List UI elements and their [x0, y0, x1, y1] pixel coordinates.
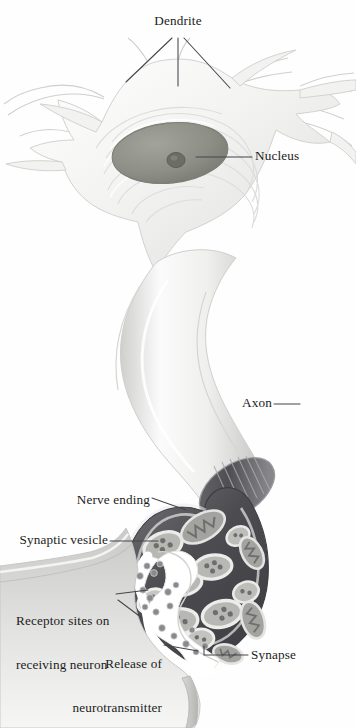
label-release-line1: Release of — [44, 657, 162, 672]
label-release-neurotransmitter: Release of neurotransmitter — [44, 628, 162, 728]
label-nucleus: Nucleus — [255, 149, 299, 164]
nucleolus-highlight — [171, 155, 178, 160]
label-nerve-ending: Nerve ending — [42, 493, 150, 508]
label-synaptic-vesicle: Synaptic vesicle — [16, 533, 108, 548]
label-axon: Axon — [232, 396, 272, 411]
label-release-line2: neurotransmitter — [44, 701, 162, 716]
label-synapse: Synapse — [251, 648, 296, 663]
soma-and-dendrites — [4, 38, 356, 272]
neuron-diagram: Dendrite Nucleus Axon Nerve ending Synap… — [0, 0, 356, 728]
label-receptor-sites-line1: Receptor sites on — [16, 614, 120, 629]
label-dendrite: Dendrite — [138, 14, 218, 29]
